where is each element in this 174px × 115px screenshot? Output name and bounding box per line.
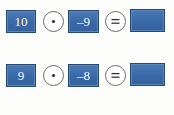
operand-b-value: –9	[77, 15, 90, 28]
expression-row: 9 –8	[0, 32, 174, 56]
operand-a-box[interactable]: 10	[6, 10, 36, 33]
circled-dot-icon	[43, 11, 64, 32]
operand-b-box[interactable]: –9	[68, 10, 99, 33]
expression-grid: 10 –9 9 –8	[0, 0, 174, 115]
expression-row	[0, 86, 174, 110]
operand-a-value: 10	[15, 15, 28, 28]
expression-row: 10 –9	[0, 5, 174, 29]
expression-row: 8 –7	[0, 59, 174, 83]
circled-equals-icon	[105, 11, 126, 32]
result-box[interactable]	[130, 9, 165, 32]
